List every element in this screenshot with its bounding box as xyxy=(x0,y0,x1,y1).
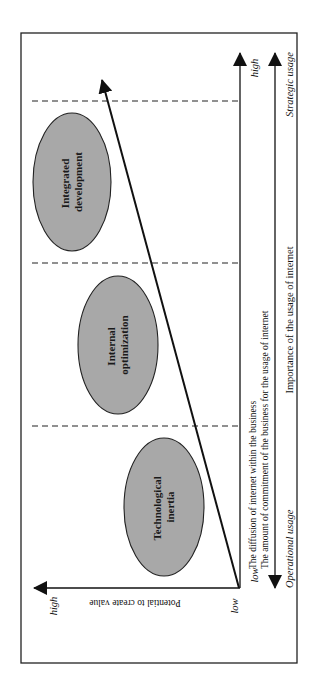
usage-axis-right-label: Strategic usage xyxy=(284,52,295,117)
diffusion-axis-label-line2: The amount of commitment of the business… xyxy=(260,310,270,569)
stage-label-line2: inertia xyxy=(164,491,176,523)
stage-label-line1: Integrated xyxy=(59,159,71,209)
stage-label-line1: Technological xyxy=(151,476,163,540)
stage-label-line2: development xyxy=(72,152,84,212)
usage-axis-center-label: Importance of the usage of internet xyxy=(284,246,295,393)
diagram-figure: Integrated development Internal optimiza… xyxy=(0,0,316,683)
diffusion-axis-high-label: high xyxy=(249,59,260,78)
stage-internal-optimization: Internal optimization xyxy=(78,276,158,414)
value-axis-high-label: high xyxy=(48,597,59,616)
value-axis-low-label: low xyxy=(229,598,240,613)
stage-integrated-development: Integrated development xyxy=(33,113,111,251)
diffusion-axis-label-line1: The diffusion of internet within the bus… xyxy=(248,401,258,569)
usage-axis-left-label: Operational usage xyxy=(284,509,295,588)
value-axis-title: Potential to create value xyxy=(89,598,181,608)
svg-text:Integrated development: Integrated development xyxy=(59,152,84,212)
stage-technological-inertia: Technological inertia xyxy=(124,438,204,576)
stage-label-line2: optimization xyxy=(118,315,130,374)
stage-label-line1: Internal xyxy=(105,327,117,366)
